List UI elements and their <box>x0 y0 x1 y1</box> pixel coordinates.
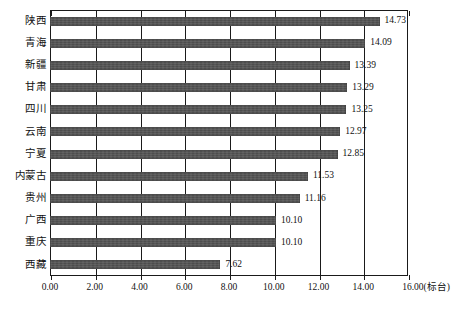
bar-row: 12.85 <box>50 143 408 165</box>
bar <box>50 238 276 247</box>
bar-row: 11.53 <box>50 165 408 187</box>
bar <box>50 172 308 181</box>
x-axis-tick-label: 10.00 <box>263 283 284 293</box>
bar-value-label: 10.10 <box>281 216 302 226</box>
x-axis-tick-label: 12.00 <box>308 283 329 293</box>
bar <box>50 39 365 48</box>
x-axis-tick-label-with-unit: 16.00(标台) <box>402 283 450 293</box>
bar-row: 10.10 <box>50 210 408 232</box>
x-axis-tick-label: 4.00 <box>131 283 148 293</box>
x-axis-tick-labels: 0.002.004.006.008.0010.0012.0014.0016.00… <box>0 283 464 303</box>
bar <box>50 17 380 26</box>
category-label: 云南 <box>25 121 46 143</box>
bar-row: 13.29 <box>50 77 408 99</box>
category-label: 四川 <box>25 99 46 121</box>
x-axis-tick-label: 6.00 <box>176 283 193 293</box>
category-label: 西藏 <box>25 254 46 276</box>
bar-row: 14.09 <box>50 32 408 54</box>
bar-value-label: 14.73 <box>385 16 406 26</box>
bar-row: 10.10 <box>50 232 408 254</box>
x-axis-tick-label: 2.00 <box>86 283 103 293</box>
bar-value-label: 12.85 <box>343 149 364 159</box>
category-label: 广西 <box>25 210 46 232</box>
category-label: 陕西 <box>25 10 46 32</box>
horizontal-bar-chart: 14.7314.0913.3913.2913.2512.9712.8511.53… <box>0 0 464 314</box>
bar-value-label: 14.09 <box>370 38 391 48</box>
x-axis-tick-label: 0.00 <box>42 283 59 293</box>
bar-value-label: 11.16 <box>305 194 326 204</box>
bar-value-label: 13.39 <box>355 61 376 71</box>
bar-row: 13.39 <box>50 54 408 76</box>
bar <box>50 61 350 70</box>
category-label: 贵州 <box>25 187 46 209</box>
category-axis-labels: 陕西青海新疆甘肃四川云南宁夏内蒙古贵州广西重庆西藏 <box>0 10 46 276</box>
category-label: 宁夏 <box>25 143 46 165</box>
bar-value-label: 12.97 <box>345 127 366 137</box>
axis-tick-top <box>409 11 410 16</box>
bar-value-label: 10.10 <box>281 238 302 248</box>
bar-row: 13.25 <box>50 99 408 121</box>
bar <box>50 150 338 159</box>
bar <box>50 260 220 269</box>
category-label: 重庆 <box>25 232 46 254</box>
category-label: 青海 <box>25 32 46 54</box>
x-axis-tick-label: 8.00 <box>221 283 238 293</box>
bar-row: 14.73 <box>50 10 408 32</box>
bar <box>50 83 347 92</box>
category-label: 新疆 <box>25 54 46 76</box>
bar-rows: 14.7314.0913.3913.2913.2512.9712.8511.53… <box>50 10 408 276</box>
bar-value-label: 13.29 <box>352 83 373 93</box>
bar-row: 11.16 <box>50 187 408 209</box>
bar-value-label: 7.62 <box>225 260 242 270</box>
bar-row: 7.62 <box>50 254 408 276</box>
bar <box>50 127 340 136</box>
bar <box>50 216 276 225</box>
bar <box>50 194 300 203</box>
category-label: 内蒙古 <box>15 165 46 187</box>
x-axis-tick-label: 14.00 <box>353 283 374 293</box>
bar <box>50 105 346 114</box>
bar-value-label: 11.53 <box>313 171 334 181</box>
bar-row: 12.97 <box>50 121 408 143</box>
bar-value-label: 13.25 <box>351 105 372 115</box>
category-label: 甘肃 <box>25 77 46 99</box>
axis-tick-bottom <box>409 275 410 280</box>
